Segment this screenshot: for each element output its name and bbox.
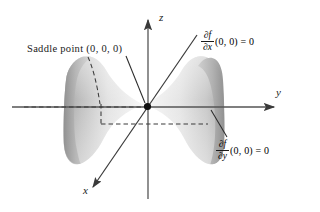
partial-y-denominator: ∂y: [217, 152, 228, 162]
partial-x-numerator: ∂f: [203, 31, 212, 41]
axis-label-x: x: [83, 184, 88, 196]
partial-y-value: (0, 0) = 0: [230, 145, 269, 156]
partial-x-denominator: ∂x: [202, 43, 213, 53]
partial-derivative-y-label: ∂f ∂y (0, 0) = 0: [216, 140, 269, 162]
origin-point-marker: [144, 103, 151, 110]
axis-label-y: y: [276, 86, 281, 98]
partial-derivative-x-label: ∂f ∂x (0, 0) = 0: [201, 31, 254, 53]
partial-x-value: (0, 0) = 0: [215, 36, 254, 47]
axis-label-z: z: [159, 11, 163, 23]
partial-x-fraction: ∂f ∂x: [201, 31, 214, 53]
saddle-point-label: Saddle point (0, 0, 0): [27, 43, 122, 54]
partial-y-fraction: ∂f ∂y: [216, 140, 229, 162]
partial-y-numerator: ∂f: [218, 140, 227, 150]
saddle-surface: [64, 56, 225, 164]
